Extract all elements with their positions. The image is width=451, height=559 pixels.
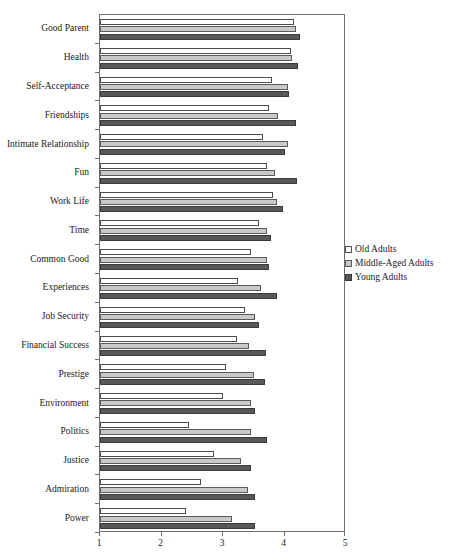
- y-axis-label: Time: [69, 225, 89, 235]
- bar-mid: [100, 26, 296, 32]
- bar-mid: [100, 458, 241, 464]
- bar-group: [100, 336, 344, 357]
- x-axis-tick-label: 2: [158, 538, 163, 549]
- y-axis-label: Common Good: [30, 254, 89, 264]
- bar-young: [100, 149, 285, 155]
- bar-young: [100, 437, 267, 443]
- y-axis-label: Environment: [39, 398, 89, 408]
- legend-label: Old Adults: [355, 244, 396, 255]
- legend-swatch-old-icon: [345, 246, 352, 253]
- y-axis-label: Job Security: [42, 311, 89, 321]
- x-axis-tick: [344, 532, 345, 536]
- bar-old: [100, 105, 269, 111]
- y-axis-label: Self-Acceptance: [26, 81, 89, 91]
- legend-label: Young Adults: [355, 272, 407, 283]
- y-axis-label: Work Life: [50, 196, 89, 206]
- bar-group: [100, 278, 344, 299]
- x-axis-tick-label: 5: [343, 538, 348, 549]
- bar-old: [100, 48, 291, 54]
- y-axis-label: Financial Success: [21, 340, 89, 350]
- y-axis-label: Justice: [63, 455, 89, 465]
- bar-old: [100, 479, 201, 485]
- bar-old: [100, 364, 226, 370]
- bar-old: [100, 422, 189, 428]
- bar-group: [100, 508, 344, 529]
- horizontal-bar-chart: Good ParentHealthSelf-AcceptanceFriendsh…: [0, 0, 451, 559]
- plot-area: [99, 14, 345, 532]
- bar-mid: [100, 400, 251, 406]
- bar-old: [100, 336, 237, 342]
- bar-mid: [100, 141, 288, 147]
- x-axis-tick: [161, 532, 162, 536]
- bar-group: [100, 134, 344, 155]
- legend-item-young: Young Adults: [345, 271, 451, 284]
- legend-item-mid: Middle-Aged Adults: [345, 257, 451, 270]
- x-axis-tick-label: 1: [97, 538, 102, 549]
- chart-legend: Old AdultsMiddle-Aged AdultsYoung Adults: [345, 243, 451, 285]
- y-axis-label: Good Parent: [41, 23, 89, 33]
- y-axis-label: Intimate Relationship: [7, 139, 89, 149]
- bar-young: [100, 235, 271, 241]
- bar-old: [100, 134, 263, 140]
- bar-young: [100, 494, 255, 500]
- bar-young: [100, 523, 255, 529]
- bar-mid: [100, 113, 278, 119]
- bar-mid: [100, 170, 275, 176]
- bar-group: [100, 192, 344, 213]
- bar-young: [100, 408, 255, 414]
- bar-group: [100, 393, 344, 414]
- bar-old: [100, 163, 267, 169]
- bar-old: [100, 508, 186, 514]
- bar-old: [100, 278, 238, 284]
- bar-young: [100, 120, 296, 126]
- legend-swatch-mid-icon: [345, 260, 352, 267]
- bar-mid: [100, 84, 288, 90]
- y-axis-category-labels: Good ParentHealthSelf-AcceptanceFriendsh…: [0, 14, 95, 532]
- bar-young: [100, 91, 289, 97]
- bar-group: [100, 249, 344, 270]
- legend-swatch-young-icon: [345, 274, 352, 281]
- y-axis-label: Politics: [60, 426, 89, 436]
- bar-mid: [100, 257, 267, 263]
- bar-old: [100, 77, 272, 83]
- bar-old: [100, 19, 294, 25]
- bar-group: [100, 163, 344, 184]
- bar-mid: [100, 372, 254, 378]
- bar-group: [100, 105, 344, 126]
- bar-young: [100, 465, 251, 471]
- bar-mid: [100, 516, 232, 522]
- bar-group: [100, 48, 344, 69]
- bar-young: [100, 379, 265, 385]
- bar-young: [100, 350, 266, 356]
- bar-group: [100, 364, 344, 385]
- x-axis-tick-label: 4: [281, 538, 286, 549]
- legend-item-old: Old Adults: [345, 243, 451, 256]
- x-axis-tick: [99, 532, 100, 536]
- y-axis-label: Admiration: [45, 484, 89, 494]
- bar-group: [100, 77, 344, 98]
- bar-group: [100, 479, 344, 500]
- bar-group: [100, 220, 344, 241]
- bar-old: [100, 451, 214, 457]
- bar-young: [100, 63, 298, 69]
- y-axis-label: Fun: [74, 167, 89, 177]
- bar-mid: [100, 285, 261, 291]
- bar-group: [100, 451, 344, 472]
- bar-young: [100, 322, 259, 328]
- bar-mid: [100, 199, 277, 205]
- bar-group: [100, 307, 344, 328]
- y-axis-label: Health: [64, 52, 89, 62]
- bar-old: [100, 220, 259, 226]
- bar-mid: [100, 487, 248, 493]
- y-axis-label: Prestige: [58, 369, 89, 379]
- bar-old: [100, 307, 245, 313]
- bar-mid: [100, 55, 292, 61]
- x-axis: 12345: [99, 532, 345, 556]
- y-axis-label: Experiences: [43, 282, 89, 292]
- x-axis-tick: [284, 532, 285, 536]
- bar-young: [100, 178, 297, 184]
- y-axis-label: Friendships: [45, 110, 89, 120]
- bar-rows: [100, 15, 344, 531]
- bar-young: [100, 264, 269, 270]
- bar-old: [100, 192, 273, 198]
